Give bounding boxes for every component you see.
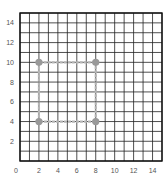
x-tick-label: 8 xyxy=(94,167,98,174)
x-tick-label: 12 xyxy=(130,167,138,174)
x-tick-label: 10 xyxy=(111,167,119,174)
vertex-point xyxy=(92,118,99,125)
y-axis-tick-labels: 2468101214 xyxy=(6,19,14,144)
x-tick-label: 14 xyxy=(149,167,157,174)
y-tick-label: 4 xyxy=(10,118,14,125)
grid-lines xyxy=(20,13,162,161)
vertex-point xyxy=(92,59,99,66)
y-tick-label: 6 xyxy=(10,98,14,105)
coordinate-grid-chart: 2468101214 02468101214 xyxy=(0,0,168,175)
y-tick-label: 12 xyxy=(6,39,14,46)
x-tick-label: 4 xyxy=(56,167,60,174)
x-tick-label: 2 xyxy=(37,167,41,174)
vertex-point xyxy=(35,118,42,125)
plot-border xyxy=(20,13,162,161)
y-tick-label: 2 xyxy=(10,138,14,145)
y-tick-label: 10 xyxy=(6,59,14,66)
x-axis-tick-labels: 02468101214 xyxy=(14,167,156,174)
x-tick-label: 0 xyxy=(14,167,18,174)
y-tick-label: 8 xyxy=(10,79,14,86)
vertex-point xyxy=(35,59,42,66)
y-tick-label: 14 xyxy=(6,19,14,26)
x-tick-label: 6 xyxy=(75,167,79,174)
